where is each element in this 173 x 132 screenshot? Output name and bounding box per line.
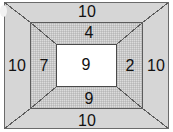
corner-speck-artifact [0,5,7,17]
bottom-margin-strip [0,129,173,132]
outer-band-bottom-label: 10 [61,113,113,129]
middle-band-bottom-label: 9 [82,91,96,107]
middle-band-left-label: 7 [37,58,51,74]
outer-band-top-label: 10 [61,4,113,20]
left-margin-strip [0,0,4,132]
outer-band-left-label: 10 [5,58,29,74]
outer-band-right-label: 10 [144,58,168,74]
middle-band-right-label: 2 [123,58,137,74]
middle-band-top-label: 4 [82,25,96,41]
inner-core-label: 9 [72,57,100,73]
diagram-canvas: 10 10 10 10 4 9 7 2 9 [0,0,173,132]
